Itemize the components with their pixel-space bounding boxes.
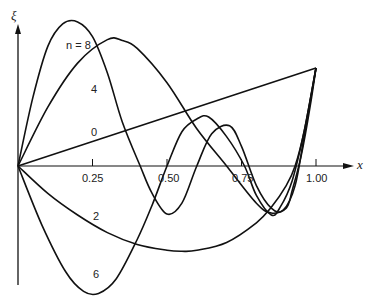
curve-label-n8: n = 8 bbox=[66, 40, 91, 51]
y-axis-arrow-icon bbox=[15, 24, 21, 34]
x-tick-label-050: 0.50 bbox=[158, 173, 179, 184]
plot-area bbox=[0, 0, 368, 298]
curve-4 bbox=[18, 38, 316, 213]
x-axis-label: x bbox=[357, 158, 363, 171]
curves-group bbox=[18, 21, 316, 295]
x-tick-label-075: 0.75 bbox=[232, 173, 253, 184]
curve-label-0: 0 bbox=[91, 127, 97, 138]
y-axis-label: ξ bbox=[11, 9, 17, 22]
curve-label-4: 4 bbox=[91, 84, 97, 95]
curve-label-6: 6 bbox=[93, 269, 99, 280]
curve-label-2: 2 bbox=[93, 211, 99, 222]
x-tick-label-100: 1.00 bbox=[306, 173, 327, 184]
x-axis-arrow-icon bbox=[343, 163, 354, 169]
x-tick-label-025: 0.25 bbox=[82, 173, 103, 184]
